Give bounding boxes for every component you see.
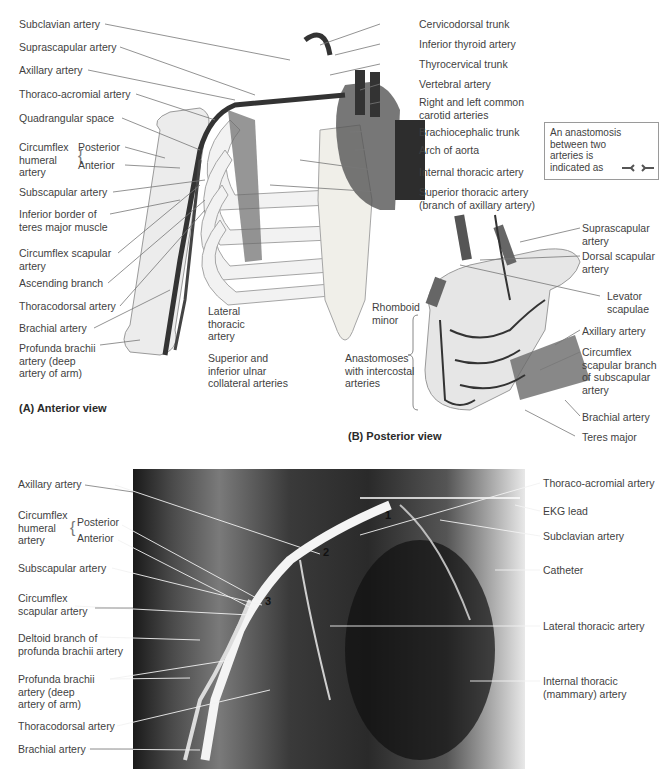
segment-number-1: 1 [385, 509, 391, 521]
label-axillary-artery-c: Axillary artery [18, 478, 82, 491]
label-subscapular-artery-c: Subscapular artery [18, 562, 106, 575]
label-thoracodorsal-artery-c: Thoracodorsal artery [18, 720, 115, 733]
label-profunda-brachii-c: Profunda brachii artery (deep artery of … [18, 673, 103, 711]
label-internal-thoracic-mammary-artery: Internal thoracic (mammary) artery [543, 675, 653, 700]
label-posterior-c: Posterior [77, 516, 119, 529]
label-ekg-lead: EKG lead [543, 505, 588, 518]
panel-c-overlay: 1 2 3 [0, 0, 671, 777]
brace-icon: { [70, 514, 75, 542]
label-anterior-c: Anterior [77, 532, 114, 545]
label-catheter: Catheter [543, 564, 583, 577]
segment-number-2: 2 [323, 546, 329, 558]
segment-number-3: 3 [265, 595, 271, 607]
label-circumflex-scapular-artery-c: Circumflex scapular artery [18, 592, 108, 617]
label-lateral-thoracic-artery-c: Lateral thoracic artery [543, 620, 645, 633]
label-circumflex-humeral-artery-c: Circumflex humeral artery [18, 509, 68, 547]
label-deltoid-branch: Deltoid branch of profunda brachii arter… [18, 632, 133, 657]
label-subclavian-artery-c: Subclavian artery [543, 530, 624, 543]
lung-field [345, 540, 495, 760]
label-thoraco-acromial-artery-c: Thoraco-acromial artery [543, 477, 654, 490]
label-brachial-artery-c: Brachial artery [18, 743, 86, 756]
